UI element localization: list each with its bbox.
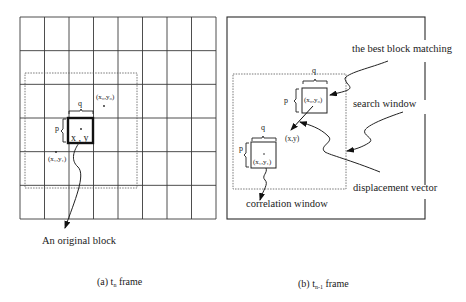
p-brace-top (294, 89, 299, 112)
search-window-arrow (347, 112, 403, 151)
q-label: q (78, 99, 82, 108)
best-block-matching-label: the best block matching (352, 43, 453, 54)
corr-point-label: (x₁,y₁) (48, 155, 67, 163)
p-brace-bottom (244, 143, 249, 167)
q-brace (69, 109, 93, 114)
best-point-label: (x₀,y₀) (96, 93, 115, 101)
corr-point-label: (x₁,y₁) (253, 158, 272, 166)
right-panel-tn-1-frame: q p (x₀,y₀) (x,y) q p (x₁,y₁) the best b… (227, 17, 453, 290)
block-center-dot (80, 128, 82, 130)
best-point-dot (103, 105, 105, 107)
p-label-top: p (284, 96, 288, 105)
p-brace (61, 119, 66, 142)
block-center-label: x , y (71, 132, 89, 143)
corr-point-dot (263, 153, 265, 155)
q-brace-top (303, 79, 327, 84)
search-window-region (233, 74, 346, 189)
center-label: (x,y) (285, 134, 300, 143)
caption-a: (a) tn frame (97, 276, 143, 288)
q-brace-bottom (252, 136, 276, 141)
search-window-label: search window (353, 98, 417, 109)
p-label-bottom: p (239, 144, 243, 153)
q-label-top: q (312, 66, 316, 75)
caption-b: (b) tn-1 frame (298, 278, 349, 290)
displacement-vector-callout-arrow (300, 122, 380, 172)
left-panel-tn-frame: (x₀,y₀) q p x , y (x₁,y₁) An original bl… (20, 17, 216, 288)
best-point-label: (x₀,y₀) (304, 96, 323, 104)
correlation-window-arrow (260, 168, 266, 200)
block-matching-diagram: (x₀,y₀) q p x , y (x₁,y₁) An original bl… (0, 0, 466, 302)
frame-grid (20, 17, 216, 219)
p-label: p (55, 124, 59, 133)
original-block-label: An original block (42, 235, 117, 246)
q-label-bottom: q (261, 123, 265, 132)
best-block-arrow (330, 61, 388, 95)
correlation-window-label: correlation window (246, 198, 328, 209)
displacement-vector-label: displacement vector (353, 182, 438, 193)
corr-point-dot (55, 151, 57, 153)
